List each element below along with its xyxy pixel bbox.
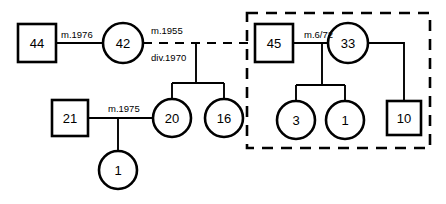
person-age-label: 10 [397, 111, 411, 126]
relationship-label-r1955: m.1955 [151, 25, 183, 36]
person-node-p45[interactable]: 45 [255, 24, 293, 62]
person-node-group: 4442453321201631101 [18, 23, 421, 189]
person-node-p42[interactable]: 42 [103, 23, 143, 63]
person-node-p44[interactable]: 44 [18, 24, 56, 62]
person-age-label: 1 [341, 113, 348, 128]
genogram-canvas: 4442453321201631101 m.1976m.1955div.1970… [0, 0, 446, 204]
connector-c-33-10 [368, 43, 404, 101]
person-node-p1a[interactable]: 1 [99, 151, 137, 189]
relationship-label-r1976: m.1976 [61, 29, 93, 40]
person-age-label: 21 [63, 111, 77, 126]
person-node-p33[interactable]: 33 [328, 23, 368, 63]
person-node-p1b[interactable]: 1 [326, 101, 364, 139]
genogram-diagram: 4442453321201631101 m.1976m.1955div.1970… [0, 0, 446, 204]
person-age-label: 33 [341, 36, 355, 51]
person-age-label: 20 [165, 111, 179, 126]
person-age-label: 16 [217, 111, 231, 126]
person-age-label: 1 [114, 163, 121, 178]
person-age-label: 44 [30, 36, 44, 51]
person-age-label: 45 [267, 36, 281, 51]
person-node-p3[interactable]: 3 [277, 101, 315, 139]
relationship-label-r672: m.6/72 [304, 29, 333, 40]
person-node-p16[interactable]: 16 [205, 99, 243, 137]
relationship-label-r1975: m.1975 [108, 103, 140, 114]
person-node-p10[interactable]: 10 [387, 101, 421, 135]
person-age-label: 42 [116, 36, 130, 51]
relationship-label-rdiv: div.1970 [151, 52, 186, 63]
person-node-p20[interactable]: 20 [153, 99, 191, 137]
person-node-p21[interactable]: 21 [52, 100, 88, 136]
person-age-label: 3 [292, 113, 299, 128]
